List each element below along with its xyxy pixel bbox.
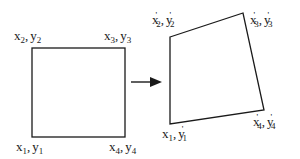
diagram-canvas: x2,y2 x3,y3 x1,y1 x4,y4 x'2,y'2 x'3,y'3 … bbox=[0, 0, 300, 159]
label-x4p-y4p: x'4,y'4 bbox=[253, 112, 276, 131]
label-x3p-y3p: x'3,y'3 bbox=[250, 10, 273, 29]
label-x1p-y1p: x1,y'1 bbox=[162, 124, 187, 143]
label-x2p-y2p: x'2,y'2 bbox=[152, 10, 175, 29]
arrow-right-icon bbox=[131, 77, 162, 87]
label-x3-y3: x3,y3 bbox=[104, 28, 132, 45]
label-x2-y2: x2,y2 bbox=[14, 28, 41, 45]
target-quadrilateral bbox=[170, 13, 264, 124]
source-square bbox=[32, 48, 125, 137]
label-x1-y1: x1,y1 bbox=[16, 139, 43, 156]
label-x4-y4: x4,y4 bbox=[109, 139, 137, 156]
